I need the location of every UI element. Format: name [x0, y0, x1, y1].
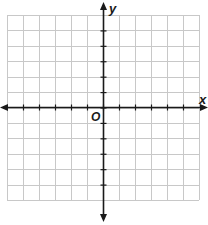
coordinate-plane: y x O [0, 0, 208, 225]
x-axis-arrow-left-icon [0, 104, 8, 111]
x-axis-label: x [198, 92, 207, 107]
y-axis-arrow-up-icon [100, 2, 107, 10]
y-axis-label: y [108, 1, 117, 16]
y-axis [100, 2, 107, 222]
y-axis-arrow-down-icon [100, 214, 107, 222]
origin-label: O [91, 110, 101, 124]
